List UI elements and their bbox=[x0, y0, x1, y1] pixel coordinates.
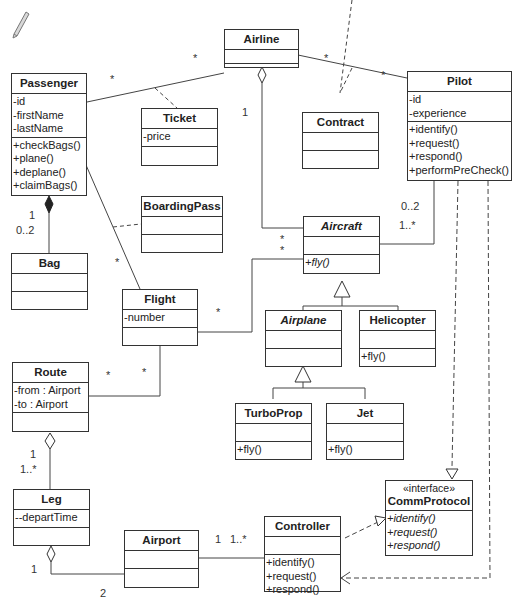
attributes-section bbox=[327, 424, 403, 442]
stereotype: «interface» bbox=[386, 482, 472, 495]
attributes-section bbox=[266, 331, 341, 349]
attributes-section bbox=[142, 217, 222, 235]
class-leg[interactable]: Leg --departTime bbox=[13, 489, 90, 546]
attribute: -id bbox=[409, 93, 511, 107]
passenger-airline-association bbox=[87, 73, 224, 102]
class-route[interactable]: Route -from : Airport -to : Airport bbox=[12, 362, 89, 432]
operations-section bbox=[125, 569, 198, 571]
multiplicity-label: 1 bbox=[30, 448, 36, 460]
class-name: Passenger bbox=[12, 74, 86, 94]
class-airport[interactable]: Airport bbox=[124, 530, 199, 588]
class-name: Leg bbox=[14, 490, 89, 510]
attribute: -experience bbox=[409, 107, 511, 121]
multiplicity-label: * bbox=[216, 306, 220, 318]
multiplicity-label: 1..* bbox=[20, 463, 37, 475]
class-bag[interactable]: Bag bbox=[11, 253, 88, 310]
class-jet[interactable]: Jet +fly() bbox=[326, 403, 404, 460]
multiplicity-label: * bbox=[115, 256, 119, 268]
multiplicity-label: 2 bbox=[100, 587, 106, 599]
operation: +respond() bbox=[409, 150, 511, 164]
class-controller[interactable]: Controller +identify() +request() +respo… bbox=[264, 516, 341, 592]
operation: +respond() bbox=[387, 539, 472, 553]
attributes-section bbox=[304, 237, 379, 255]
attributes-section bbox=[360, 331, 435, 349]
controller-commprotocol-realization bbox=[345, 522, 378, 538]
class-name: Helicopter bbox=[360, 311, 435, 331]
multiplicity-label: 1..* bbox=[399, 219, 416, 231]
operation: +fly() bbox=[305, 256, 379, 270]
class-pilot[interactable]: Pilot -id -experience +identify() +reque… bbox=[407, 71, 512, 181]
class-name: Flight bbox=[123, 290, 197, 310]
operations-section bbox=[13, 413, 88, 415]
operations-section bbox=[303, 151, 378, 153]
multiplicity-label: * bbox=[193, 52, 197, 64]
class-airplane[interactable]: Airplane bbox=[265, 310, 342, 367]
class-airline[interactable]: Airline bbox=[224, 29, 299, 68]
operation: +identify() bbox=[409, 123, 511, 137]
attributes-section: -from : Airport -to : Airport bbox=[13, 383, 88, 413]
class-name: Aircraft bbox=[304, 217, 379, 237]
interface-commprotocol[interactable]: «interface» CommProtocol +identify() +re… bbox=[385, 480, 473, 556]
class-ticket[interactable]: Ticket -price bbox=[141, 108, 218, 166]
class-name: «interface» CommProtocol bbox=[386, 481, 472, 511]
class-flight[interactable]: Flight -number bbox=[122, 289, 198, 346]
class-passenger[interactable]: Passenger -id -firstName -lastName +chec… bbox=[11, 73, 87, 196]
pilot-commprotocol-realization bbox=[452, 181, 458, 467]
operation: +request() bbox=[409, 137, 511, 151]
multiplicity-label: 0..2 bbox=[401, 200, 419, 212]
class-aircraft[interactable]: Aircraft +fly() bbox=[303, 216, 380, 274]
operation: +respond() bbox=[266, 583, 340, 597]
class-contract[interactable]: Contract bbox=[302, 112, 379, 169]
multiplicity-label: * bbox=[381, 69, 385, 81]
operations-section: +fly() bbox=[304, 255, 379, 271]
class-name: Jet bbox=[327, 404, 403, 424]
multiplicity-label: 1 bbox=[215, 533, 221, 545]
attributes-section bbox=[236, 424, 311, 442]
multiplicity-label: 1 bbox=[31, 563, 37, 575]
class-name: Contract bbox=[303, 113, 378, 133]
multiplicity-label: * bbox=[110, 73, 114, 85]
operations-section bbox=[266, 349, 341, 351]
multiplicity-label: * bbox=[142, 366, 146, 378]
ticket-association-dashed bbox=[155, 88, 177, 108]
class-boardingpass[interactable]: BoardingPass bbox=[141, 196, 223, 253]
operations-section: +fly() bbox=[236, 442, 311, 458]
operations-section bbox=[142, 235, 222, 237]
attributes-section: -number bbox=[123, 310, 197, 328]
class-name: Bag bbox=[12, 254, 87, 274]
operation: +performPreCheck() bbox=[409, 164, 511, 178]
operation: +plane() bbox=[13, 152, 86, 166]
operations-section: +identify() +request() +respond() bbox=[265, 555, 340, 598]
multiplicity-label: * bbox=[106, 369, 110, 381]
class-name: Controller bbox=[265, 517, 340, 537]
attribute: -to : Airport bbox=[14, 398, 88, 412]
operation: +identify() bbox=[266, 556, 340, 570]
attributes-section bbox=[303, 133, 378, 151]
operation: +request() bbox=[387, 526, 472, 540]
boardingpass-association-dashed bbox=[113, 224, 141, 227]
attributes-section bbox=[225, 50, 298, 64]
leg-airport-aggregation bbox=[51, 562, 124, 574]
attributes-section: -id -experience bbox=[408, 92, 511, 122]
attributes-section: -price bbox=[142, 129, 217, 147]
operation: +claimBags() bbox=[13, 179, 86, 193]
attribute: -id bbox=[13, 95, 86, 109]
class-name: Route bbox=[13, 363, 88, 383]
operations-section: +identify() +request() +respond() bbox=[386, 511, 472, 554]
operation: +fly() bbox=[328, 443, 403, 457]
interface-name: CommProtocol bbox=[388, 495, 470, 507]
operations-section bbox=[225, 64, 298, 76]
operations-section: +fly() bbox=[327, 442, 403, 458]
class-name: TurboProp bbox=[236, 404, 311, 424]
airline-pilot-aggregation bbox=[298, 55, 407, 78]
operation: +fly() bbox=[237, 443, 311, 457]
multiplicity-label: 0..2 bbox=[16, 224, 34, 236]
class-helicopter[interactable]: Helicopter +fly() bbox=[359, 310, 436, 367]
operations-section: +checkBags() +plane() +deplane() +claimB… bbox=[12, 138, 86, 194]
operations-section bbox=[142, 147, 217, 149]
class-name: Airline bbox=[225, 30, 298, 50]
class-name: Ticket bbox=[142, 109, 217, 129]
attribute: --departTime bbox=[15, 511, 89, 525]
airline-aircraft-aggregation bbox=[262, 83, 306, 228]
class-turboprop[interactable]: TurboProp +fly() bbox=[235, 403, 312, 460]
